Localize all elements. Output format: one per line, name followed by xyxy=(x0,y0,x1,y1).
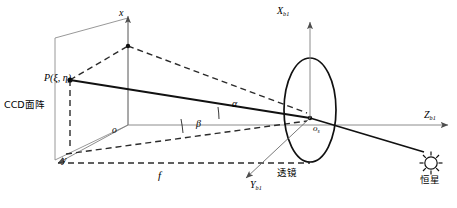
figure-canvas: CCD面阵 P(ξ, η) o x y f 透镜 os Xb1 Yb1 Zb1 … xyxy=(0,0,457,208)
alpha-arc xyxy=(218,107,219,119)
body-z-sub: b1 xyxy=(430,114,436,121)
body-x-sub: b1 xyxy=(283,10,289,17)
image-y-axis xyxy=(58,125,128,163)
image-x-axis-label: x xyxy=(119,8,123,18)
star-label: 恒星 xyxy=(420,175,440,185)
image-point-label: P(ξ, η) xyxy=(44,73,71,83)
body-x-axis-label: Xb1 xyxy=(277,6,289,17)
lens-label: 透镜 xyxy=(277,168,297,178)
beta-arc xyxy=(181,119,183,133)
ray-lens-to-star xyxy=(310,118,424,152)
alpha-angle-label: α xyxy=(232,99,237,109)
diagram-vector-layer xyxy=(0,0,457,208)
ccd-plane-label: CCD面阵 xyxy=(4,100,45,110)
ccd-focal-plane-outline xyxy=(55,18,128,160)
image-y-axis-label: y xyxy=(62,155,66,165)
dashed-P-to-apex xyxy=(70,46,128,80)
body-frame-axes xyxy=(246,22,310,178)
body-y-axis-label: Yb1 xyxy=(250,180,262,191)
body-z-axis-label: Zb1 xyxy=(424,110,436,121)
image-origin-label: o xyxy=(112,126,117,136)
body-y-sub: b1 xyxy=(256,184,262,191)
dashed-construction-lines xyxy=(58,46,310,163)
principal-ray-path xyxy=(67,44,424,152)
beta-angle-label: β xyxy=(196,119,201,129)
apex-point-marker xyxy=(126,44,130,48)
star-icon xyxy=(420,152,443,175)
lens-origin-sub: s xyxy=(318,128,320,134)
lens-origin-label: os xyxy=(313,124,320,134)
focal-length-label: f xyxy=(158,170,161,181)
ray-P-to-lens xyxy=(70,80,310,118)
